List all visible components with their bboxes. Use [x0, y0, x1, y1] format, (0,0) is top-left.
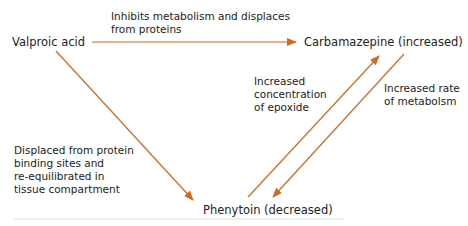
edge-label-line: re-equilibrated in	[14, 170, 134, 183]
edge-label-carbamazepine-phenytoin: Increased rate of metabolsm	[384, 82, 460, 108]
edge-label-line: of epoxide	[254, 101, 327, 114]
edge-label-line: Inhibits metabolism and displaces	[111, 10, 290, 23]
edge-label-phenytoin-carbamazepine: Increased concentration of epoxide	[254, 75, 327, 114]
node-valproic-acid: Valproic acid	[12, 36, 85, 49]
edge-label-line: tissue compartment	[14, 183, 134, 196]
edge-label-line: from proteins	[111, 23, 290, 36]
node-carbamazepine: Carbamazepine (increased)	[304, 36, 463, 49]
edge-label-valproic-carbamazepine: Inhibits metabolism and displaces from p…	[111, 10, 290, 36]
faint-footer-line	[14, 218, 344, 220]
edge-label-line: of metabolsm	[384, 95, 460, 108]
edge-label-valproic-phenytoin: Displaced from protein binding sites and…	[14, 144, 134, 196]
edge-label-line: Increased	[254, 75, 327, 88]
edge-label-line: concentration	[254, 88, 327, 101]
edge-label-line: binding sites and	[14, 157, 134, 170]
edge-label-line: Displaced from protein	[14, 144, 134, 157]
node-phenytoin: Phenytoin (decreased)	[203, 204, 333, 217]
edge-label-line: Increased rate	[384, 82, 460, 95]
